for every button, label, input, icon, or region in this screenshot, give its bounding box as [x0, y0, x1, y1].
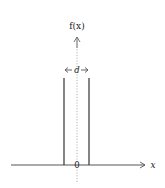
y-axis-label: f(x)	[69, 21, 84, 31]
pulse-diagram: f(x) d 0 x	[0, 0, 165, 188]
width-label: d	[74, 65, 80, 75]
origin-label: 0	[74, 160, 79, 170]
x-axis-label: x	[150, 160, 155, 170]
